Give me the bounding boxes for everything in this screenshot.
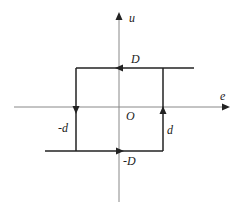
y-axis-label: u — [129, 12, 135, 24]
x-axis — [14, 104, 230, 111]
y-axis-arrow-icon — [116, 12, 123, 20]
origin-label: O — [126, 110, 135, 122]
x-axis-arrow-icon — [222, 104, 230, 111]
x-axis-label: e — [220, 90, 225, 102]
right-threshold-label: d — [167, 124, 173, 136]
arrow-down-icon — [73, 106, 80, 114]
lower-level-label: -D — [123, 155, 136, 167]
hysteresis-diagram — [0, 0, 241, 213]
left-threshold-label: -d — [58, 122, 68, 134]
upper-level-label: D — [131, 53, 140, 65]
